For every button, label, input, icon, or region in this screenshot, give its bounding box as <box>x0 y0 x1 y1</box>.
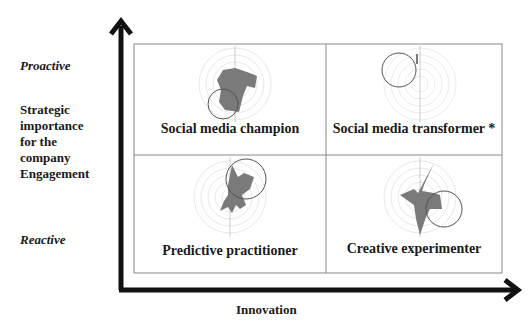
proactive-label: Proactive <box>20 58 71 74</box>
radar-area <box>400 163 442 235</box>
y-axis-title-line: importance <box>20 118 120 134</box>
radar-chart-practitioner <box>185 155 275 240</box>
quadrant-title-practitioner: Predictive practitioner <box>134 243 326 259</box>
quadrant-title-transformer: Social media transformer * <box>326 121 502 137</box>
y-axis-title: Strategic importance for the company Eng… <box>20 102 120 182</box>
quadrant-title-champion: Social media champion <box>134 121 326 137</box>
radar-area <box>220 165 254 213</box>
quadrant-title-experimenter: Creative experimenter <box>326 241 502 257</box>
y-axis-title-line: Engagement <box>20 166 120 182</box>
x-axis-title: Innovation <box>236 302 297 318</box>
y-axis-title-line: Strategic <box>20 102 120 118</box>
y-axis-title-line: company <box>20 150 120 166</box>
radar-chart-experimenter <box>375 155 470 240</box>
y-axis-title-line: for the <box>20 134 120 150</box>
radar-area <box>416 54 418 64</box>
reactive-label: Reactive <box>20 232 65 248</box>
radar-chart-transformer <box>375 44 465 124</box>
radar-chart-champion <box>190 44 280 124</box>
radar-area <box>217 68 257 112</box>
radar-grid <box>384 46 456 122</box>
